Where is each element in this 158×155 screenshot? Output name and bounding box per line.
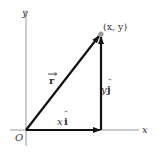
origin-label: O	[15, 132, 23, 143]
svg-text:x: x	[57, 116, 63, 127]
svg-text:^: ^	[107, 77, 112, 84]
point-marker	[98, 31, 103, 36]
r-vector-label: r	[48, 73, 57, 87]
svg-text:y: y	[100, 84, 107, 95]
svg-text:^: ^	[64, 109, 69, 116]
vector-diagram: y x O (x, y) r y j ^ x i ^	[0, 0, 158, 155]
x-axis-label: x	[142, 124, 148, 135]
svg-text:j: j	[106, 84, 111, 95]
point-label: (x, y)	[103, 21, 127, 32]
x-component-label: x i ^	[57, 109, 69, 127]
svg-text:r: r	[49, 75, 55, 86]
svg-text:i: i	[64, 116, 68, 127]
y-axis-label: y	[21, 7, 28, 18]
